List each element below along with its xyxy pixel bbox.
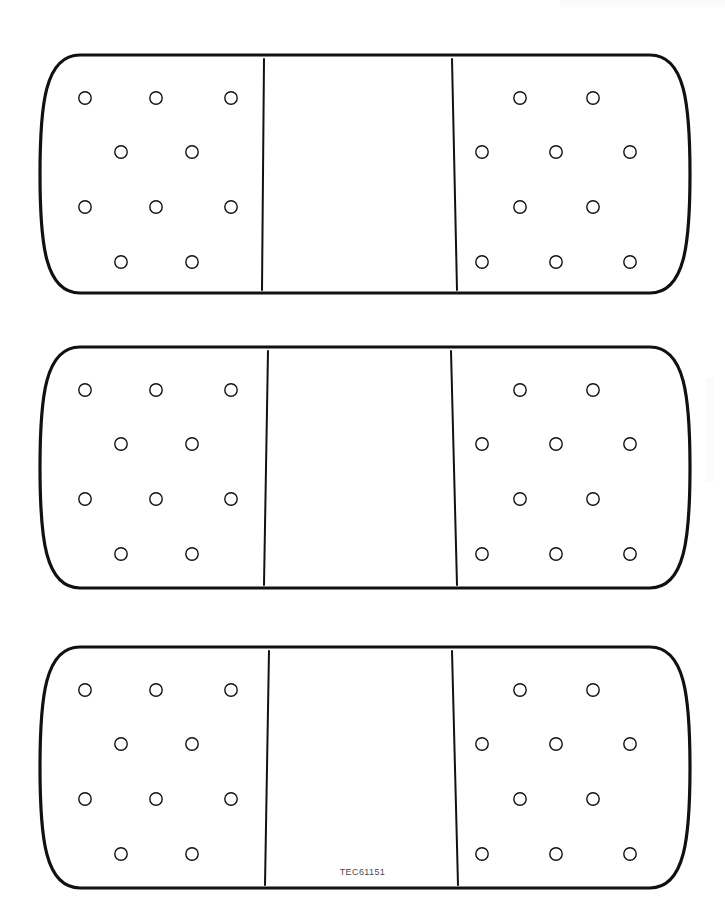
bandage-2-right-pad-hole-r4-c3 [624, 548, 636, 560]
bandage-2-right-pad-hole-r2-c2 [550, 438, 562, 450]
bandage-1-left-pad-hole-r2-c2 [186, 146, 198, 158]
bandage-2-right-pad-hole-r1-c1 [514, 384, 526, 396]
bandage-2-right-pad-hole-r1-c2 [587, 384, 599, 396]
bandage-3-left-pad-hole-r3-c3 [225, 793, 237, 805]
bandage-3-divider-right [452, 651, 458, 885]
bandage-3-right-pad-hole-r3-c2 [587, 793, 599, 805]
bandage-3-right-pad-hole-r4-c2 [550, 848, 562, 860]
bandage-1-outline [40, 55, 690, 293]
page-canvas: TEC61151 [0, 0, 725, 916]
bandage-1-right-pad-hole-r3-c1 [514, 201, 526, 213]
bandage-2-left-pad-hole-r3-c3 [225, 493, 237, 505]
bandage-3-left-pad-hole-r2-c2 [186, 738, 198, 750]
bandage-2-left-pad-hole-r1-c3 [225, 384, 237, 396]
bandage-2-right-pad-hole-r3-c2 [587, 493, 599, 505]
bandage-2-left-pad-hole-r2-c1 [115, 438, 127, 450]
bandage-3-right-pad-hole-r3-c1 [514, 793, 526, 805]
bandage-3-right-pad-hole-r1-c2 [587, 684, 599, 696]
bandage-1-right-pad-hole-r4-c1 [476, 256, 488, 268]
bandage-3-right-pad-hole-r2-c2 [550, 738, 562, 750]
bandage-1-left-pad-hole-r4-c2 [186, 256, 198, 268]
bandage-2-left-pad-hole-r1-c2 [150, 384, 162, 396]
bandage-2-left-pad-hole-r3-c1 [79, 493, 91, 505]
bandage-1-left-pad-hole-r2-c1 [115, 146, 127, 158]
figure-code-label: TEC61151 [0, 866, 725, 878]
bandage-2-right-pad-hole-r2-c3 [624, 438, 636, 450]
bandage-1-right-pad-hole-r1-c2 [587, 92, 599, 104]
bandage-3-left-pad-hole-r1-c3 [225, 684, 237, 696]
bandage-3-right-pad-hole-r2-c1 [476, 738, 488, 750]
bandage-2-divider-left [264, 351, 268, 585]
bandage-3-divider-left [265, 651, 269, 885]
bandage-2-left-pad-hole-r3-c2 [150, 493, 162, 505]
bandage-1-left-pad-hole-r3-c2 [150, 201, 162, 213]
bandage-2-left-pad-hole-r4-c1 [115, 548, 127, 560]
bandage-1-divider-left [262, 59, 264, 290]
bandage-1-left-pad-hole-r4-c1 [115, 256, 127, 268]
bandage-1-right-pad-hole-r3-c2 [587, 201, 599, 213]
bandage-1-right-pad-hole-r2-c2 [550, 146, 562, 158]
bandage-1-left-pad-hole-r1-c2 [150, 92, 162, 104]
bandage-2-right-pad-hole-r4-c2 [550, 548, 562, 560]
bandage-1-left-pad-hole-r3-c3 [225, 201, 237, 213]
bandage-3-right-pad-hole-r4-c3 [624, 848, 636, 860]
bandage-3-left-pad-hole-r3-c1 [79, 793, 91, 805]
bandage-2-right-pad-hole-r4-c1 [476, 548, 488, 560]
bandage-2-left-pad-hole-r4-c2 [186, 548, 198, 560]
bandage-3-left-pad-hole-r4-c2 [186, 848, 198, 860]
bandage-1-right-pad-hole-r1-c1 [514, 92, 526, 104]
bandage-1-left-pad-hole-r3-c1 [79, 201, 91, 213]
bandage-3 [40, 647, 690, 888]
bandage-group [40, 55, 690, 888]
bandage-2-left-pad-hole-r1-c1 [79, 384, 91, 396]
bandage-3-left-pad-hole-r2-c1 [115, 738, 127, 750]
bandage-3-left-pad-hole-r1-c2 [150, 684, 162, 696]
bandage-1-right-pad-hole-r2-c3 [624, 146, 636, 158]
bandage-2 [40, 347, 690, 588]
bandage-1 [40, 55, 690, 293]
bandage-1-divider-right [452, 59, 457, 290]
bandage-2-right-pad-hole-r3-c1 [514, 493, 526, 505]
bandage-1-left-pad-hole-r1-c1 [79, 92, 91, 104]
bandage-illustration [0, 0, 725, 916]
bandage-3-left-pad-hole-r4-c1 [115, 848, 127, 860]
bandage-2-divider-right [451, 351, 457, 585]
bandage-1-left-pad-hole-r1-c3 [225, 92, 237, 104]
bandage-1-right-pad-hole-r4-c3 [624, 256, 636, 268]
bandage-1-right-pad-hole-r2-c1 [476, 146, 488, 158]
bandage-2-left-pad-hole-r2-c2 [186, 438, 198, 450]
bandage-3-left-pad-hole-r3-c2 [150, 793, 162, 805]
bandage-1-right-pad-hole-r4-c2 [550, 256, 562, 268]
bandage-3-left-pad-hole-r1-c1 [79, 684, 91, 696]
bandage-3-right-pad-hole-r1-c1 [514, 684, 526, 696]
bandage-3-right-pad-hole-r4-c1 [476, 848, 488, 860]
bandage-3-right-pad-hole-r2-c3 [624, 738, 636, 750]
bandage-2-right-pad-hole-r2-c1 [476, 438, 488, 450]
